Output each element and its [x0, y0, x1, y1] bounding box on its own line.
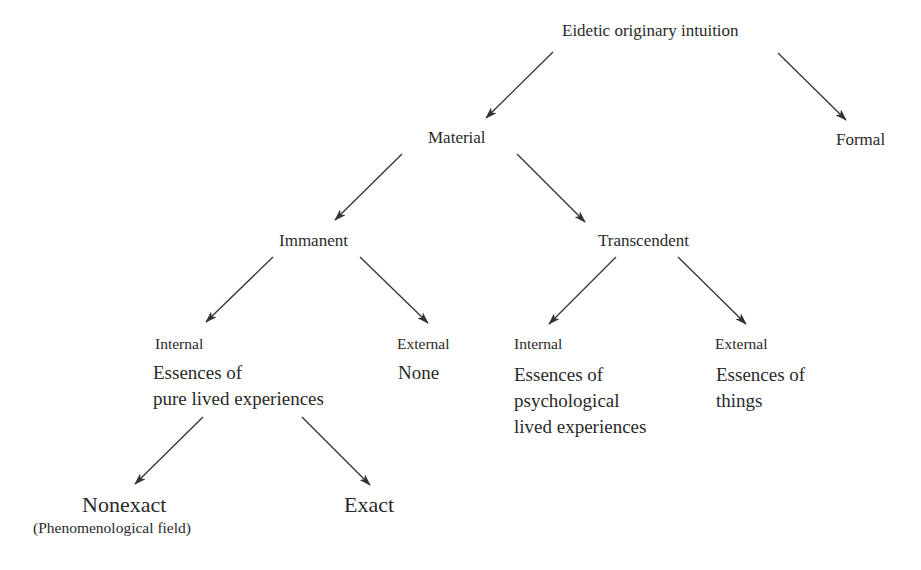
- arrow-imm_internal-to-nonexact: [135, 417, 203, 484]
- node-formal: Formal: [836, 131, 885, 148]
- arrow-material-to-transcendent: [517, 154, 585, 222]
- node-transcendent-external-description: Essences of things: [716, 362, 805, 414]
- node-immanent: Immanent: [279, 232, 348, 249]
- arrow-transcendent-to-tr_external: [678, 257, 746, 324]
- arrow-root-to-formal: [778, 53, 846, 120]
- node-immanent-external-description: None: [398, 360, 439, 386]
- node-transcendent-internal-label: Internal: [514, 336, 562, 352]
- node-transcendent-internal-description: Essences of psychological lived experien…: [514, 362, 646, 440]
- arrow-immanent-to-imm_internal: [206, 257, 273, 322]
- node-nonexact: Nonexact: [82, 494, 166, 516]
- node-immanent-internal-description: Essences of pure lived experiences: [153, 360, 324, 412]
- node-eidetic-originary-intuition: Eidetic originary intuition: [562, 22, 739, 39]
- node-nonexact-sublabel: (Phenomenological field): [33, 520, 191, 536]
- node-transcendent-external-label: External: [715, 336, 768, 352]
- arrow-transcendent-to-tr_internal: [549, 257, 616, 324]
- arrow-material-to-immanent: [335, 154, 402, 220]
- arrow-imm_internal-to-exact: [302, 417, 370, 485]
- diagram-edges: [0, 0, 921, 570]
- node-immanent-internal-label: Internal: [155, 336, 203, 352]
- node-immanent-external-label: External: [397, 336, 450, 352]
- arrow-immanent-to-imm_external: [360, 257, 428, 323]
- node-transcendent: Transcendent: [598, 232, 689, 249]
- node-material: Material: [428, 129, 486, 146]
- node-exact: Exact: [344, 494, 394, 516]
- arrow-root-to-material: [486, 52, 553, 118]
